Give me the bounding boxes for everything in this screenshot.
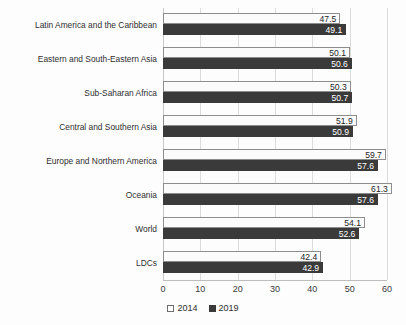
bar-2014-eastern-and-south-eastern-asia: 50.1 xyxy=(163,47,350,58)
x-tick-label-10: 10 xyxy=(180,284,220,294)
bar-value-label: 49.1 xyxy=(326,25,343,34)
bar-2014-oceania: 61.3 xyxy=(163,183,392,194)
bar-2019-world: 52.6 xyxy=(163,228,359,239)
legend-label: 2014 xyxy=(177,303,197,313)
bar-2014-sub-saharan-africa: 50.3 xyxy=(163,81,351,92)
bar-value-label: 42.4 xyxy=(301,252,318,261)
bar-2019-europe-and-northern-america: 57.6 xyxy=(163,160,378,171)
bar-value-label: 61.3 xyxy=(371,184,388,193)
chart-legend: 20142019 xyxy=(0,303,406,313)
category-label: Europe and Northern America xyxy=(0,156,157,166)
bar-chart: Latin America and the Caribbean47.549.1E… xyxy=(0,0,406,325)
bar-value-label: 50.6 xyxy=(331,59,348,68)
bar-value-label: 57.6 xyxy=(357,195,374,204)
bar-2019-eastern-and-south-eastern-asia: 50.6 xyxy=(163,58,352,69)
category-label: Latin America and the Caribbean xyxy=(0,20,157,30)
x-axis-line xyxy=(163,280,387,281)
legend-item-2019[interactable]: 2019 xyxy=(209,303,239,313)
bar-value-label: 57.6 xyxy=(357,161,374,170)
bar-2019-oceania: 57.6 xyxy=(163,194,378,205)
category-label: Eastern and South-Eastern Asia xyxy=(0,54,157,64)
bar-value-label: 50.3 xyxy=(330,82,347,91)
bar-2014-latin-america-and-the-caribbean: 47.5 xyxy=(163,13,340,24)
category-label: LDCs xyxy=(0,258,157,268)
bar-value-label: 54.1 xyxy=(344,218,361,227)
bar-value-label: 50.1 xyxy=(329,48,346,57)
bar-2019-ldcs: 42.9 xyxy=(163,262,323,273)
bar-value-label: 42.9 xyxy=(302,263,319,272)
x-tick-label-50: 50 xyxy=(330,284,370,294)
bar-value-label: 51.9 xyxy=(336,116,353,125)
bar-2019-sub-saharan-africa: 50.7 xyxy=(163,92,352,103)
bar-2019-latin-america-and-the-caribbean: 49.1 xyxy=(163,24,346,35)
bar-value-label: 59.7 xyxy=(365,150,382,159)
category-label: World xyxy=(0,224,157,234)
legend-item-2014[interactable]: 2014 xyxy=(167,303,197,313)
bar-value-label: 50.7 xyxy=(332,93,349,102)
x-tick-label-0: 0 xyxy=(143,284,183,294)
filled-square-icon xyxy=(209,305,216,312)
x-tick-label-40: 40 xyxy=(292,284,332,294)
bar-2014-central-and-southern-asia: 51.9 xyxy=(163,115,357,126)
bar-value-label: 52.6 xyxy=(339,229,356,238)
hollow-square-icon xyxy=(167,305,174,312)
bar-2014-world: 54.1 xyxy=(163,217,365,228)
bar-value-label: 47.5 xyxy=(320,14,337,23)
bar-2019-central-and-southern-asia: 50.9 xyxy=(163,126,353,137)
category-label: Central and Southern Asia xyxy=(0,122,157,132)
x-tick-label-60: 60 xyxy=(367,284,406,294)
bar-2014-ldcs: 42.4 xyxy=(163,251,321,262)
category-label: Oceania xyxy=(0,190,157,200)
bar-value-label: 50.9 xyxy=(332,127,349,136)
category-label: Sub-Saharan Africa xyxy=(0,88,157,98)
bar-2014-europe-and-northern-america: 59.7 xyxy=(163,149,386,160)
x-tick-label-30: 30 xyxy=(255,284,295,294)
x-tick-label-20: 20 xyxy=(218,284,258,294)
legend-label: 2019 xyxy=(219,303,239,313)
